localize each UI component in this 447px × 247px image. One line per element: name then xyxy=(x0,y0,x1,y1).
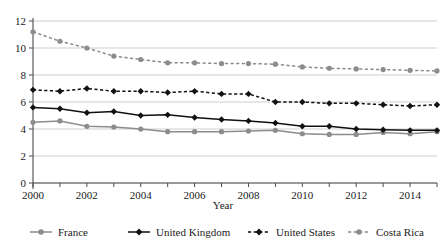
data-point-0-1 xyxy=(57,118,62,123)
x-tick-label-2014: 2014 xyxy=(399,189,422,201)
data-point-2-13 xyxy=(380,102,386,108)
data-point-2-9 xyxy=(272,99,278,105)
data-point-0-2 xyxy=(84,124,89,129)
data-point-3-0 xyxy=(30,29,35,34)
data-point-1-12 xyxy=(353,126,359,132)
data-point-legend-0 xyxy=(38,229,44,235)
data-point-2-2 xyxy=(84,85,90,91)
data-point-3-3 xyxy=(111,54,116,59)
legend-label-2: United States xyxy=(276,226,335,238)
data-point-3-14 xyxy=(407,68,412,73)
data-point-1-0 xyxy=(30,104,36,110)
data-point-1-9 xyxy=(272,120,278,126)
data-point-1-6 xyxy=(191,114,197,120)
x-tick-label-2002: 2002 xyxy=(76,189,98,201)
data-point-0-12 xyxy=(354,132,359,137)
legend-label-0: France xyxy=(58,226,88,238)
series-line-3 xyxy=(33,32,437,71)
data-point-2-3 xyxy=(111,88,117,94)
data-point-1-3 xyxy=(111,108,117,114)
legend-item-france[interactable]: France xyxy=(30,226,88,238)
data-point-2-0 xyxy=(30,87,36,93)
x-tick-label-2000: 2000 xyxy=(22,189,45,201)
y-tick-label-12: 12 xyxy=(15,15,26,27)
data-point-2-11 xyxy=(326,100,332,106)
data-point-2-7 xyxy=(218,91,224,97)
data-series-layer xyxy=(30,29,440,137)
data-point-0-5 xyxy=(165,129,170,134)
data-point-3-8 xyxy=(246,61,251,66)
data-point-2-12 xyxy=(353,100,359,106)
series-line-2 xyxy=(33,89,437,107)
data-point-1-1 xyxy=(57,106,63,112)
y-axis-tick-labels: 121086420 xyxy=(15,15,27,189)
y-tick-label-0: 0 xyxy=(21,177,27,189)
x-tick-label-2008: 2008 xyxy=(237,189,260,201)
legend-label-1: United Kingdom xyxy=(156,226,231,238)
data-point-2-10 xyxy=(299,99,305,105)
data-point-3-7 xyxy=(219,61,224,66)
data-point-3-13 xyxy=(381,67,386,72)
data-point-3-9 xyxy=(273,62,278,67)
data-point-1-4 xyxy=(138,112,144,118)
data-point-1-10 xyxy=(299,123,305,129)
x-tick-label-2004: 2004 xyxy=(130,189,153,201)
x-tick-label-2012: 2012 xyxy=(345,189,367,201)
chart-legend: FranceUnited KingdomUnited StatesCosta R… xyxy=(30,226,424,238)
line-chart: 121086420 200020022004200620082010201220… xyxy=(0,0,447,247)
data-point-3-1 xyxy=(57,39,62,44)
data-point-0-7 xyxy=(219,129,224,134)
x-tick-label-2010: 2010 xyxy=(291,189,314,201)
data-point-legend-3 xyxy=(356,229,362,235)
series-line-0 xyxy=(33,121,437,134)
axes xyxy=(33,18,437,189)
data-point-3-11 xyxy=(327,66,332,71)
y-tick-label-8: 8 xyxy=(21,69,27,81)
series-france xyxy=(30,118,439,137)
data-point-1-2 xyxy=(84,110,90,116)
data-point-0-11 xyxy=(327,132,332,137)
y-tick-label-6: 6 xyxy=(21,96,27,108)
data-point-2-15 xyxy=(434,102,440,108)
data-point-legend-2 xyxy=(256,229,263,236)
legend-item-united-kingdom[interactable]: United Kingdom xyxy=(128,226,231,238)
data-point-2-6 xyxy=(191,88,197,94)
data-point-2-14 xyxy=(407,103,413,109)
data-point-3-10 xyxy=(300,64,305,69)
data-point-2-5 xyxy=(164,89,170,95)
data-point-0-6 xyxy=(192,129,197,134)
chart-canvas: 121086420 200020022004200620082010201220… xyxy=(0,0,447,247)
data-point-0-3 xyxy=(111,124,116,129)
data-point-3-12 xyxy=(354,66,359,71)
data-point-3-6 xyxy=(192,60,197,65)
y-tick-label-4: 4 xyxy=(21,123,27,135)
gridlines xyxy=(33,21,437,183)
series-united-states xyxy=(30,85,440,109)
data-point-0-4 xyxy=(138,126,143,131)
data-point-0-8 xyxy=(246,128,251,133)
data-point-2-4 xyxy=(138,88,144,94)
x-axis-title: Year xyxy=(213,199,234,211)
data-point-1-7 xyxy=(218,116,224,122)
data-point-0-0 xyxy=(30,120,35,125)
data-point-3-2 xyxy=(84,45,89,50)
data-point-1-11 xyxy=(326,123,332,129)
data-point-2-1 xyxy=(57,88,63,94)
legend-label-3: Costa Rica xyxy=(376,226,424,238)
data-point-3-5 xyxy=(165,60,170,65)
data-point-3-15 xyxy=(434,68,439,73)
data-point-legend-1 xyxy=(136,229,143,236)
data-point-1-8 xyxy=(245,118,251,124)
legend-item-united-states[interactable]: United States xyxy=(248,226,335,238)
y-tick-label-2: 2 xyxy=(21,150,27,162)
data-point-0-9 xyxy=(273,128,278,133)
x-tick-label-2006: 2006 xyxy=(184,189,207,201)
series-costa-rica xyxy=(30,29,439,73)
y-axis-ticks xyxy=(29,21,33,183)
legend-item-costa-rica[interactable]: Costa Rica xyxy=(348,226,424,238)
data-point-2-8 xyxy=(245,91,251,97)
data-point-1-5 xyxy=(164,112,170,118)
data-point-0-10 xyxy=(300,131,305,136)
x-axis-ticks xyxy=(33,183,437,187)
y-tick-label-10: 10 xyxy=(15,42,27,54)
